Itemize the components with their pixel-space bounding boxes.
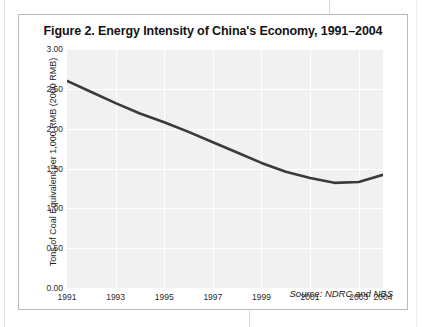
y-axis-tick-label: 2.00	[19, 124, 63, 134]
y-axis-tick-label: 0.00	[19, 283, 63, 293]
y-axis-tick-label: 1.00	[19, 203, 63, 213]
x-axis-tick-label: 1995	[155, 292, 174, 302]
x-axis-tick-label: 1999	[252, 292, 271, 302]
page-edge-left	[4, 0, 5, 327]
energy-intensity-line	[67, 81, 383, 183]
page-fold-mark-bottom	[249, 311, 250, 327]
y-axis-tick-label: 2.50	[19, 84, 63, 94]
y-axis-tick-label: 3.00	[19, 44, 63, 54]
data-line-chart	[67, 49, 383, 288]
x-axis-tick-label: 1993	[106, 292, 125, 302]
page-fold-mark-top	[329, 0, 330, 15]
y-axis-tick-label: 0.50	[19, 243, 63, 253]
figure-container: Figure 2. Energy Intensity of China's Ec…	[18, 14, 408, 310]
y-axis-tick-label: 1.50	[19, 164, 63, 174]
source-note: Source: NDRC and NBS	[290, 288, 393, 299]
x-axis-tick-label: 1991	[58, 292, 77, 302]
x-axis-tick-label: 1997	[203, 292, 222, 302]
plot-area	[67, 49, 383, 288]
page-edge-right	[416, 0, 417, 327]
figure-title: Figure 2. Energy Intensity of China's Ec…	[19, 24, 407, 38]
